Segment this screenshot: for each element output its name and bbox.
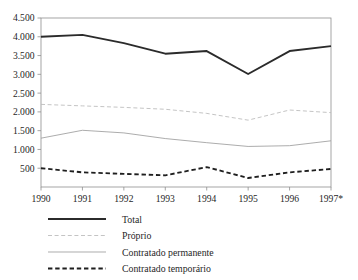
legend-label: Próprio bbox=[122, 230, 151, 241]
line-chart: 5001.0001.5002.0002.5003.0003.5004.0004.… bbox=[0, 0, 358, 280]
y-tick-label: 2.000 bbox=[13, 106, 35, 117]
y-tick-label: 500 bbox=[20, 163, 35, 174]
x-tick-label: 1992 bbox=[114, 193, 133, 204]
series-line-prprio bbox=[41, 104, 331, 120]
legend-label: Total bbox=[122, 214, 142, 225]
series-line-total bbox=[41, 35, 331, 74]
y-tick-label: 3.500 bbox=[13, 50, 35, 61]
series-line-contratado-permanente bbox=[41, 130, 331, 146]
y-axis-tick-labels: 5001.0001.5002.0002.5003.0003.5004.0004.… bbox=[13, 12, 35, 173]
y-tick-label: 1.500 bbox=[13, 125, 35, 136]
series-line-contratado-temporrio bbox=[41, 167, 331, 178]
y-tick-label: 3.000 bbox=[13, 69, 35, 80]
y-tick-label: 1.000 bbox=[13, 144, 35, 155]
x-tick-label: 1994 bbox=[197, 193, 216, 204]
chart-figure: 5001.0001.5002.0002.5003.0003.5004.0004.… bbox=[0, 0, 358, 280]
x-axis-tick-labels: 19901991199219931994199519961997* bbox=[31, 193, 343, 204]
chart-legend: TotalPróprioContratado permanenteContrat… bbox=[48, 214, 214, 275]
y-tick-label: 4.500 bbox=[13, 12, 35, 23]
x-tick-label: 1997* bbox=[319, 193, 343, 204]
x-tick-label: 1996 bbox=[280, 193, 299, 204]
plot-border bbox=[41, 18, 331, 187]
x-tick-label: 1991 bbox=[73, 193, 92, 204]
x-tick-label: 1993 bbox=[156, 193, 175, 204]
x-tick-label: 1995 bbox=[239, 193, 258, 204]
data-series-group bbox=[41, 35, 331, 178]
y-tick-label: 2.500 bbox=[13, 88, 35, 99]
x-tick-label: 1990 bbox=[31, 193, 50, 204]
y-tick-label: 4.000 bbox=[13, 31, 35, 42]
legend-label: Contratado temporário bbox=[122, 263, 211, 274]
y-axis-ticks bbox=[38, 18, 42, 168]
plot-frame bbox=[41, 18, 331, 187]
legend-label: Contratado permanente bbox=[122, 247, 214, 258]
x-axis-ticks bbox=[41, 187, 331, 191]
